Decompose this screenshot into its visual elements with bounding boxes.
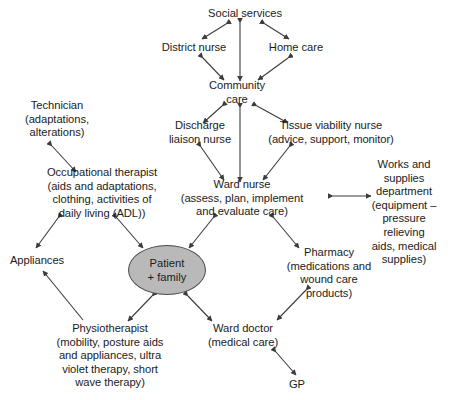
node-patient-family: Patient + family (128, 245, 206, 295)
edge-home_care-to-community_care (258, 58, 288, 80)
node-tissue-viability-nurse: Tissue viability nurse (advice, support,… (268, 119, 394, 146)
node-works-and-supplies-department: Works and supplies department (equipment… (371, 158, 437, 267)
edge-ward_nurse-to-pharmacy (274, 218, 299, 248)
care-network-diagram: Social services District nurse Home care… (0, 0, 470, 400)
node-physiotherapist: Physiotherapist (mobility, posture aids … (57, 322, 164, 390)
edge-physiotherapist-to-appliances (43, 271, 83, 320)
node-ward-doctor: Ward doctor (medical care) (208, 322, 278, 349)
node-discharge-liaison-nurse: Discharge liaison nurse (169, 119, 231, 146)
node-gp: GP (289, 378, 305, 392)
edge-occupational-to-patient_family (117, 218, 143, 248)
node-ward-nurse: Ward nurse (assess, plan, implement and … (181, 178, 304, 219)
edge-patient_family-to-ward_doctor (188, 296, 212, 321)
edge-patient_family-to-physiotherapist (128, 296, 152, 321)
node-district-nurse: District nurse (162, 41, 227, 55)
node-occupational-therapist: Occupational therapist (aids and adaptat… (47, 166, 157, 220)
edge-ward_doctor-to-gp (276, 352, 296, 375)
edge-ward_nurse-to-patient_family (189, 218, 213, 248)
node-appliances: Appliances (10, 254, 64, 268)
node-home-care: Home care (269, 41, 323, 55)
edge-tissue_viability-to-ward_nurse (263, 147, 289, 180)
edge-social_services-to-district_nurse (202, 24, 226, 39)
node-social-services: Social services (208, 7, 282, 21)
node-pharmacy: Pharmacy (medications and wound care pro… (287, 246, 371, 300)
node-technician: Technician (adaptations, alterations) (25, 99, 89, 140)
edge-district_nurse-to-community_care (203, 58, 224, 80)
edge-occupational-to-appliances (36, 218, 58, 248)
node-community-care: Community care (209, 79, 265, 106)
edge-discharge_liaison-to-ward_nurse (201, 147, 224, 180)
edge-social_services-to-home_care (265, 24, 289, 39)
